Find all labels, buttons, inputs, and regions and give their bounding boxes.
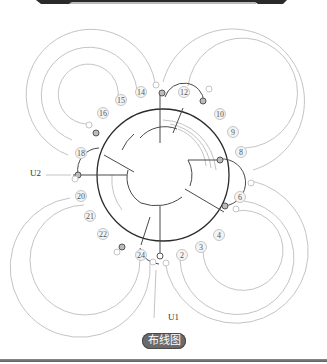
slot-number: 22 <box>99 230 107 239</box>
winding-diagram: 23468910121415161820212224 U2 U1 <box>0 0 327 364</box>
slot-number: 9 <box>231 128 235 137</box>
coil-outer-bottom-left <box>10 198 150 337</box>
slot-number: 14 <box>137 88 145 97</box>
coil-outer-top-right <box>163 29 304 170</box>
slot-number: 18 <box>77 149 85 158</box>
slot-number-labels: 23468910121415161820212224 <box>76 87 247 261</box>
slot-number: 8 <box>239 148 243 157</box>
slot-number: 16 <box>99 109 107 118</box>
slot-number: 10 <box>216 110 224 119</box>
title-badge: 布线图 <box>142 333 186 349</box>
slot-number: 15 <box>117 96 125 105</box>
slot-number: 24 <box>137 251 145 260</box>
slot-number: 4 <box>217 231 221 240</box>
slot-number: 6 <box>238 193 242 202</box>
bottom-rule <box>0 359 327 362</box>
label-u2: U2 <box>30 168 41 178</box>
slot-number: 2 <box>180 251 184 260</box>
slot-number: 12 <box>180 88 188 97</box>
slot-number: 20 <box>77 192 85 201</box>
slot-number: 21 <box>86 212 94 221</box>
label-u1: U1 <box>168 312 179 322</box>
slot-number: 3 <box>199 243 203 252</box>
